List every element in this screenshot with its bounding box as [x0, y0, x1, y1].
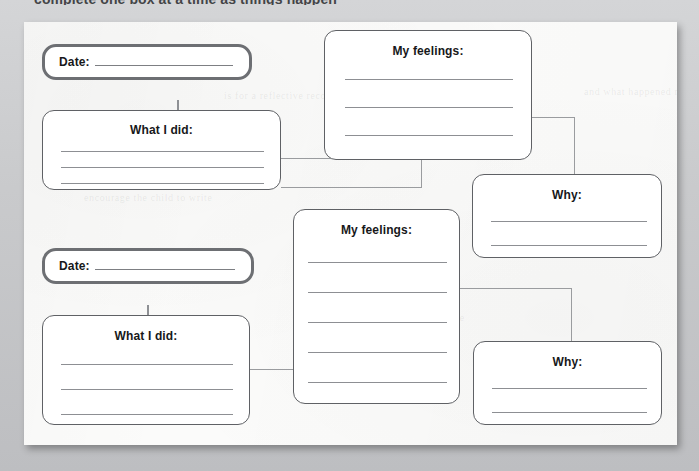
- writing-line[interactable]: [345, 107, 513, 108]
- writing-line[interactable]: [492, 388, 647, 389]
- my-feelings-box-1[interactable]: My feelings:: [324, 30, 532, 160]
- ghost-text-line: and what happened next: [584, 86, 677, 97]
- why-box-1[interactable]: Why:: [472, 174, 662, 258]
- writing-line[interactable]: [308, 292, 447, 293]
- connector-whatidid1-horizontal: [281, 187, 422, 188]
- connector-whatidid1-riser: [421, 158, 422, 188]
- date-input-2[interactable]: [95, 269, 235, 270]
- what-i-did-box-1[interactable]: What I did:: [42, 110, 281, 190]
- connector-myfeelings2-to-why2-horizontal: [460, 288, 572, 289]
- date-label-1: Date:: [59, 55, 90, 69]
- writing-line[interactable]: [61, 389, 233, 390]
- writing-line[interactable]: [345, 135, 513, 136]
- ghost-text-line: encourage the child to write: [84, 192, 212, 203]
- what-i-did-title-1: What I did:: [43, 123, 280, 137]
- scan-background: is for a reflective record of behaviour …: [0, 0, 699, 471]
- worksheet-page: is for a reflective record of behaviour …: [24, 22, 677, 445]
- connector-whatidid2-to-myfeelings2: [249, 369, 297, 370]
- date-input-1[interactable]: [95, 65, 233, 66]
- why-box-2[interactable]: Why:: [473, 341, 662, 425]
- why-title-2: Why:: [474, 355, 661, 369]
- what-i-did-title-2: What I did:: [43, 329, 249, 343]
- writing-line[interactable]: [345, 79, 513, 80]
- writing-line[interactable]: [61, 364, 233, 365]
- writing-line[interactable]: [61, 151, 264, 152]
- connector-myfeelings1-to-why1-horizontal: [532, 117, 575, 118]
- writing-line[interactable]: [61, 183, 264, 184]
- writing-line[interactable]: [491, 245, 647, 246]
- why-title-1: Why:: [473, 188, 661, 202]
- date-box-1[interactable]: Date:: [42, 44, 252, 80]
- writing-line[interactable]: [308, 352, 447, 353]
- what-i-did-box-2[interactable]: What I did:: [42, 315, 250, 425]
- my-feelings-title-2: My feelings:: [294, 223, 459, 237]
- my-feelings-box-2[interactable]: My feelings:: [293, 209, 460, 404]
- writing-line[interactable]: [492, 412, 647, 413]
- writing-line[interactable]: [308, 382, 447, 383]
- writing-line[interactable]: [61, 167, 264, 168]
- writing-line[interactable]: [61, 414, 233, 415]
- writing-line[interactable]: [308, 262, 447, 263]
- date-box-2[interactable]: Date:: [42, 248, 254, 284]
- my-feelings-title-1: My feelings:: [325, 44, 531, 58]
- writing-line[interactable]: [308, 322, 447, 323]
- writing-line[interactable]: [491, 221, 647, 222]
- date-label-2: Date:: [59, 259, 90, 273]
- cropped-heading: complete one box at a time as things hap…: [34, 0, 454, 5]
